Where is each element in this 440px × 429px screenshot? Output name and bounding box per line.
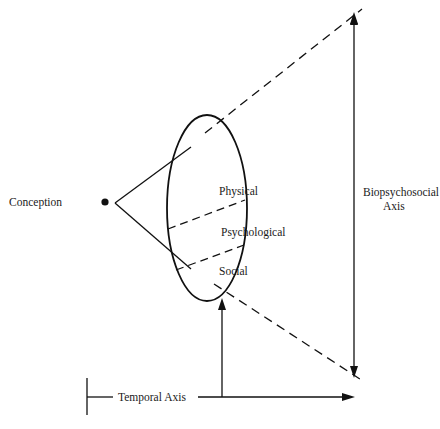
time-point-arrowhead [218, 298, 226, 310]
divider-physical-psychological [168, 200, 245, 229]
cone-lower-line [115, 203, 191, 269]
temporal-axis-arrowhead [342, 393, 355, 401]
biopsychosocial-diagram: Conception Physical Psychological Social… [0, 0, 440, 429]
conception-dot [101, 198, 108, 205]
biopsychosocial-axis-label-line2: Axis [383, 200, 405, 212]
cone-lower-dashed-extension [214, 284, 363, 381]
cone-upper-line [115, 147, 191, 203]
temporal-axis-label: Temporal Axis [118, 391, 186, 404]
biopsychosocial-axis-label-line1: Biopsychosocial [363, 186, 439, 199]
conception-label: Conception [9, 196, 62, 209]
psychological-label: Psychological [221, 226, 286, 239]
cone-upper-dashed-extension [205, 9, 362, 133]
physical-label: Physical [219, 185, 258, 198]
social-label: Social [219, 265, 248, 277]
